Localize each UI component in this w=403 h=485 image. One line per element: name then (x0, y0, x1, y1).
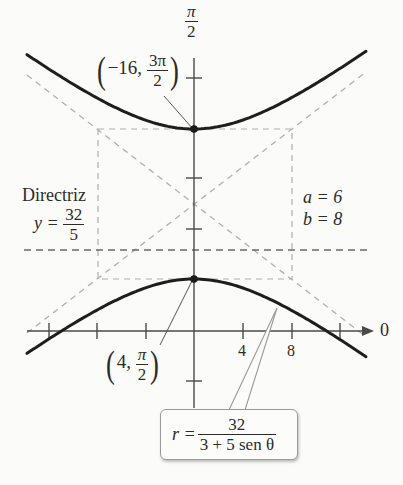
vertex-lower-label: (4, π 2 ) (104, 345, 161, 383)
param-a-label: a = 6 (303, 188, 342, 206)
param-b-label: b = 8 (303, 210, 342, 228)
hyperbola-upper-branch (27, 51, 366, 129)
directrix-equation: y = 32 5 (34, 206, 84, 243)
equation-text: r = 32 3 + 5 sen θ (172, 413, 274, 455)
directrix-title: Directriz (22, 186, 86, 204)
vertex-lower-dot (190, 275, 198, 283)
tick-label-8: 8 (287, 343, 295, 359)
callout-tail (229, 308, 277, 410)
vertex-upper-label: (−16, 3π 2 ) (95, 51, 181, 89)
hyperbola-diagram: π 2 (−16, 3π 2 ) (4, π 2 ) Directriz y =… (0, 0, 403, 485)
leader-vertex-lower (160, 281, 192, 345)
hyperbola-lower-branch (27, 279, 366, 357)
polar-axis-arrow-icon (362, 326, 374, 336)
tick-label-4: 4 (238, 343, 246, 359)
leader-vertex-upper (164, 96, 193, 129)
vertical-axis-label: π 2 (185, 3, 198, 40)
vertex-upper-dot (190, 125, 198, 133)
polar-axis-label: 0 (380, 321, 389, 339)
